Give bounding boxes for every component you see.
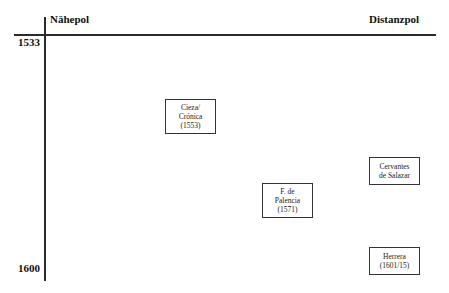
node-line: de Salazar [379, 171, 410, 180]
node-line: Herrera [380, 252, 410, 261]
node-line: (1553) [179, 121, 203, 130]
time-axis-line [44, 17, 46, 281]
node-palencia: F. de Palencia (1571) [262, 183, 313, 218]
node-line: Cieza/ [179, 103, 203, 112]
node-line: Cervantes [379, 162, 410, 171]
node-line: (1601/15) [380, 261, 410, 270]
node-line: Palencia [275, 196, 300, 205]
node-line: F. de [275, 187, 300, 196]
node-cieza: Cieza/ Crónica (1553) [165, 99, 216, 134]
year-end-label: 1600 [18, 262, 40, 274]
right-pole-label: Distanzpol [369, 13, 419, 25]
node-cervantes: Cervantes de Salazar [369, 157, 420, 185]
left-pole-label: Nähepol [50, 13, 89, 25]
distance-axis-line [14, 34, 436, 36]
node-line: (1571) [275, 205, 300, 214]
node-herrera: Herrera (1601/15) [369, 247, 420, 275]
node-line: Crónica [179, 112, 203, 121]
year-start-label: 1533 [18, 36, 40, 48]
